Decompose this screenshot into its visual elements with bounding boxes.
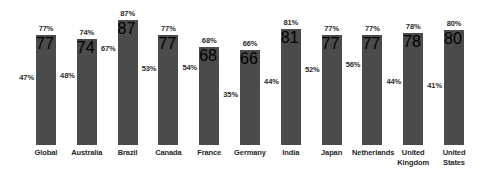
category-label: United States: [434, 148, 475, 167]
bar-value-label: 77%: [161, 24, 176, 33]
secondary-value-label: 54%: [182, 63, 197, 72]
secondary-value-label: 41%: [427, 81, 442, 90]
bar-value-label: 78%: [406, 22, 421, 31]
bar-group: 8080%41%: [444, 0, 464, 145]
bar: 77: [158, 35, 178, 145]
bar: 81: [281, 29, 301, 145]
bar: 80: [444, 30, 464, 145]
bar: 68: [199, 47, 219, 145]
bar: 66: [240, 50, 260, 145]
category-axis: GlobalAustraliaBrazilCanadaFranceGermany…: [0, 148, 490, 179]
bar-group: 6868%54%: [199, 0, 219, 145]
bar-value-label: 74%: [79, 28, 94, 37]
bar-chart: 7777%47%7474%48%8787%67%7777%53%6868%54%…: [0, 0, 490, 179]
bar-group: 7777%47%: [36, 0, 56, 145]
bar-value-label: 68%: [202, 36, 217, 45]
bar-group: 7878%44%: [403, 0, 423, 145]
bar-value-label: 66%: [243, 39, 258, 48]
bar-value-label: 80%: [447, 19, 462, 28]
bar-group: 7777%56%: [362, 0, 382, 145]
bar-group: 7777%52%: [322, 0, 342, 145]
category-label: Germany: [230, 148, 271, 158]
secondary-value-label: 47%: [19, 73, 34, 82]
secondary-value-label: 35%: [223, 90, 238, 99]
category-label: Canada: [148, 148, 189, 158]
secondary-value-label: 56%: [346, 60, 361, 69]
secondary-value-label: 53%: [142, 64, 157, 73]
secondary-value-label: 67%: [101, 44, 116, 53]
bar-value-label: 77%: [39, 24, 54, 33]
secondary-value-label: 44%: [264, 77, 279, 86]
category-label: Netherlands: [352, 148, 393, 158]
secondary-value-label: 44%: [386, 77, 401, 86]
bar: 87: [118, 20, 138, 145]
bar: 77: [36, 35, 56, 145]
category-label: Japan: [311, 148, 352, 158]
bar-value-label: 81%: [283, 18, 298, 27]
category-label: Australia: [66, 148, 107, 158]
bar-group: 7777%53%: [158, 0, 178, 145]
bar-group: 8181%44%: [281, 0, 301, 145]
plot-area: 7777%47%7474%48%8787%67%7777%53%6868%54%…: [0, 0, 490, 145]
bar-group: 7474%48%: [77, 0, 97, 145]
secondary-value-label: 52%: [305, 65, 320, 74]
bar: 77: [322, 35, 342, 145]
category-label: France: [189, 148, 230, 158]
category-label: India: [270, 148, 311, 158]
bar-group: 6666%35%: [240, 0, 260, 145]
category-label: Global: [26, 148, 67, 158]
secondary-value-label: 48%: [60, 71, 75, 80]
bar-value-label: 77%: [365, 24, 380, 33]
bar-value-label: 77%: [324, 24, 339, 33]
category-label: Brazil: [107, 148, 148, 158]
bar-value-label: 87%: [120, 9, 135, 18]
bar: 77: [362, 35, 382, 145]
category-label: United Kingdom: [393, 148, 434, 167]
bar-group: 8787%67%: [118, 0, 138, 145]
bar: 74: [77, 39, 97, 145]
bar: 78: [403, 33, 423, 145]
